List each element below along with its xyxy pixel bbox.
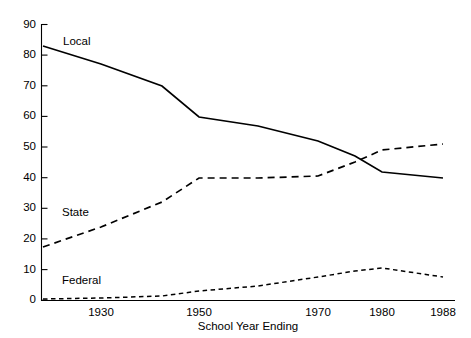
series-line-state — [43, 144, 443, 247]
line-chart: 90 80 70 60 50 40 30 20 10 0 1930 1950 1… — [0, 0, 471, 338]
y-tick-label: 70 — [23, 79, 36, 91]
x-tick-label: 1950 — [186, 306, 212, 318]
y-tick-marks — [42, 25, 48, 301]
x-tick-label: 1930 — [88, 306, 114, 318]
x-axis-title: School Year Ending — [198, 320, 298, 332]
series-label-state: State — [62, 206, 89, 218]
y-tick-label: 10 — [23, 263, 36, 275]
x-tick-label: 1988 — [430, 306, 456, 318]
series-line-federal — [43, 268, 443, 299]
y-tick-label: 60 — [23, 109, 36, 121]
y-tick-label: 0 — [30, 293, 36, 305]
x-tick-label: 1970 — [305, 306, 331, 318]
x-tick-label: 1980 — [369, 306, 395, 318]
series-line-local — [43, 46, 443, 178]
y-tick-label: 20 — [23, 232, 36, 244]
y-tick-label: 40 — [23, 171, 36, 183]
y-axis-tick-labels: 90 80 70 60 50 40 30 20 10 0 — [23, 18, 36, 306]
y-tick-label: 50 — [23, 140, 36, 152]
y-tick-label: 90 — [23, 18, 36, 30]
y-tick-label: 80 — [23, 48, 36, 60]
series-label-local: Local — [63, 35, 91, 47]
x-axis-tick-labels: 1930 1950 1970 1980 1988 — [88, 306, 456, 318]
y-tick-label: 30 — [23, 201, 36, 213]
series-label-federal: Federal — [62, 274, 101, 286]
chart-container: 90 80 70 60 50 40 30 20 10 0 1930 1950 1… — [0, 0, 471, 338]
